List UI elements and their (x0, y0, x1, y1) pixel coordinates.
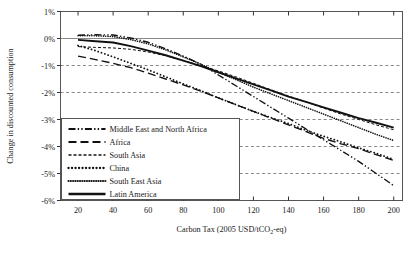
x-axis-tick-label: 140 (282, 206, 294, 215)
y-axis-tick-label: -4% (41, 143, 55, 152)
x-axis-tick-label: 180 (353, 206, 365, 215)
x-axis-tick-label: 160 (317, 206, 329, 215)
legend-label-4: China (110, 164, 130, 173)
x-axis-tick-label: 120 (247, 206, 259, 215)
y-axis-tick-label: -2% (41, 89, 55, 98)
y-axis-tick-label: -1% (41, 62, 55, 71)
y-axis-title: Change in discounted consumption (6, 48, 15, 163)
x-axis-tick-label: 100 (212, 206, 224, 215)
x-axis-tick-label: 40 (109, 206, 117, 215)
legend-label-3: South Asia (110, 151, 146, 160)
x-axis-tick-label: 60 (144, 206, 152, 215)
legend-label-6: Latin America (110, 190, 157, 199)
y-axis-tick-label: -3% (41, 116, 55, 125)
chart-figure: 1%0%-1%-2%-3%-4%-5%-6%204060801001201401… (0, 0, 412, 255)
y-axis-tick-label: 0% (44, 35, 55, 44)
x-axis-tick-label: 80 (179, 206, 187, 215)
x-axis-tick-label: 20 (74, 206, 82, 215)
x-axis-tick-label: 200 (388, 206, 400, 215)
legend-label-1: Middle East and North Africa (110, 125, 208, 134)
y-axis-tick-label: -5% (41, 170, 55, 179)
y-axis-tick-label: -6% (41, 197, 55, 206)
legend-label-5: South East Asia (110, 177, 162, 186)
legend-label-2: Africa (110, 138, 131, 147)
x-axis-title: Carbon Tax (2005 USD/tCO2-eq) (177, 225, 287, 235)
line-chart: 1%0%-1%-2%-3%-4%-5%-6%204060801001201401… (0, 0, 412, 255)
y-axis-tick-label: 1% (44, 8, 55, 17)
